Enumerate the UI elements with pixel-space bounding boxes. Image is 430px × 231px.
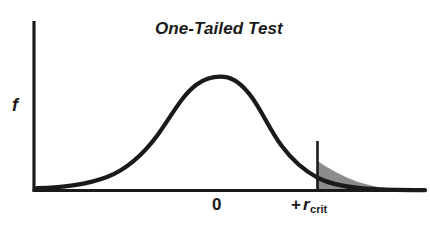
critical-value-symbol: r: [303, 196, 310, 213]
one-tailed-test-figure: One-Tailed Test f 0 +rcrit: [0, 0, 430, 231]
y-axis-label: f: [12, 96, 18, 114]
rejection-region-shading: [318, 161, 425, 191]
critical-value-sign: +: [291, 196, 301, 213]
critical-value-subscript: crit: [310, 204, 327, 215]
normal-distribution-curve: [37, 77, 425, 191]
x-axis-tick-label-critical-value: +rcrit: [291, 196, 327, 213]
x-axis-tick-label-zero: 0: [212, 196, 221, 213]
chart-title: One-Tailed Test: [155, 20, 283, 37]
